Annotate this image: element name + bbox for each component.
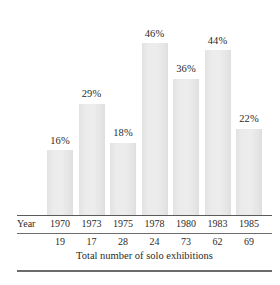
table-cell-year: 1985: [236, 219, 262, 229]
bar-group: 46%: [142, 0, 168, 215]
table-row: 19172824736269: [17, 234, 272, 251]
bar: [236, 129, 262, 215]
bar-group: 29%: [79, 0, 105, 215]
bar: [47, 150, 73, 215]
bar-group: 36%: [173, 0, 199, 215]
bar-value-label: 44%: [208, 36, 228, 47]
data-table: Year 1970197319751978198019831985 191728…: [17, 215, 272, 251]
table-cell-year: 1975: [110, 219, 136, 229]
bar: [110, 143, 136, 215]
figure: 16%29%18%46%36%44%22% Year 1970197319751…: [0, 0, 280, 285]
bar-value-label: 29%: [82, 89, 102, 100]
bar: [79, 104, 105, 215]
table-row: Year 1970197319751978198019831985: [17, 216, 272, 233]
table-cell-year: 1980: [173, 219, 199, 229]
bar-group: 18%: [110, 0, 136, 215]
table-cell-count: 69: [236, 237, 262, 247]
table-cell-count: 62: [205, 237, 231, 247]
table-cell-count: 73: [173, 237, 199, 247]
table-cell-count: 19: [47, 237, 73, 247]
chart-caption: Total number of solo exhibitions: [17, 251, 272, 262]
table-cell-year: 1970: [47, 219, 73, 229]
bar-group: 44%: [205, 0, 231, 215]
figure-bottom-rule: [17, 270, 272, 272]
bar-value-label: 16%: [50, 136, 70, 147]
table-cell-year: 1973: [79, 219, 105, 229]
table-cell-year: 1978: [142, 219, 168, 229]
bar: [205, 50, 231, 215]
bar-chart-plot-area: 16%29%18%46%36%44%22%: [17, 0, 272, 215]
row-header-year: Year: [17, 219, 35, 229]
bar-value-label: 46%: [145, 29, 165, 40]
bar: [142, 43, 168, 215]
bar-value-label: 36%: [176, 64, 196, 75]
table-cell-year: 1983: [205, 219, 231, 229]
table-cell-count: 28: [110, 237, 136, 247]
table-cell-count: 24: [142, 237, 168, 247]
bar-group: 22%: [236, 0, 262, 215]
bar-value-label: 22%: [239, 114, 259, 125]
bar-group: 16%: [47, 0, 73, 215]
bar: [173, 79, 199, 215]
bar-value-label: 18%: [113, 128, 133, 139]
table-cell-count: 17: [79, 237, 105, 247]
